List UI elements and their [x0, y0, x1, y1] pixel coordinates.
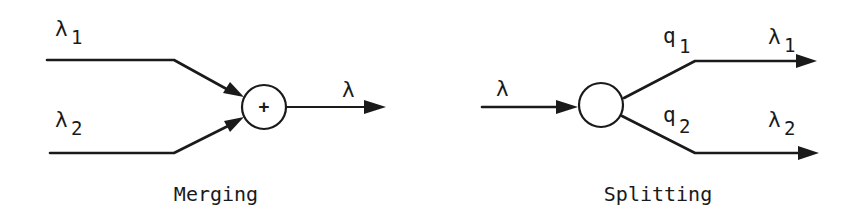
merging-input-1: λ 1 [47, 17, 244, 97]
splitting-branch-1-line [624, 61, 800, 98]
lambda-1-output-label: λ [768, 25, 781, 49]
lambda-input-label: λ [496, 77, 509, 101]
lambda-2-subscript: 2 [71, 117, 82, 139]
splitting-branch-1: q 1 λ 1 [624, 24, 817, 98]
q-1-label: q [663, 24, 676, 48]
arrowhead-icon [796, 54, 817, 68]
lambda-1-output-subscript: 1 [784, 34, 795, 56]
merging-caption: Merging [174, 182, 258, 206]
arrowhead-icon [798, 146, 819, 160]
q-2-label: q [663, 103, 676, 127]
arrowhead-icon [224, 117, 244, 132]
lambda-2-label: λ [55, 108, 68, 132]
merging-input-1-line [47, 60, 232, 92]
splitting-caption: Splitting [604, 182, 712, 206]
arrowhead-icon [364, 100, 386, 114]
merging-node: + [242, 85, 286, 129]
lambda-1-subscript: 1 [71, 26, 82, 48]
plus-icon: + [259, 96, 270, 117]
diagram-canvas: λ 1 λ 2 + λ Merging [0, 0, 860, 224]
splitting-input: λ [482, 77, 578, 114]
arrowhead-icon [556, 100, 578, 114]
q-2-subscript: 2 [679, 115, 690, 137]
split-node-circle [579, 83, 623, 127]
lambda-2-output-subscript: 2 [784, 117, 795, 139]
q-1-subscript: 1 [679, 35, 690, 57]
merging-output: λ [287, 78, 386, 114]
lambda-1-label: λ [55, 17, 68, 41]
splitting-branch-2: q 2 λ 2 [622, 103, 819, 160]
merging-diagram: λ 1 λ 2 + λ Merging [47, 17, 386, 206]
splitting-diagram: λ q 1 λ 1 q 2 λ 2 Splitting [482, 24, 819, 206]
arrowhead-icon [223, 82, 244, 97]
merging-input-2: λ 2 [50, 108, 244, 153]
lambda-2-output-label: λ [768, 108, 781, 132]
lambda-output-label: λ [342, 78, 355, 102]
